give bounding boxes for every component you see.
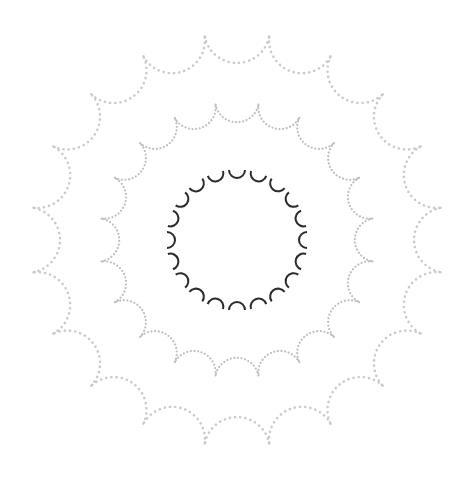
middle-ring <box>102 105 373 376</box>
inner-arc <box>251 299 267 309</box>
outer-ring <box>34 37 441 444</box>
scallop-rings-figure <box>0 0 474 479</box>
inner-arc <box>168 254 178 270</box>
inner-ring <box>167 170 307 310</box>
inner-arc <box>296 211 306 227</box>
outer-ring-scallops <box>34 37 441 444</box>
inner-arc <box>189 289 203 302</box>
inner-arc <box>286 192 299 206</box>
inner-arc <box>189 179 203 192</box>
inner-arc <box>208 299 224 309</box>
inner-arc <box>286 273 299 287</box>
inner-arc <box>270 289 284 302</box>
inner-arc <box>229 302 245 310</box>
inner-arc <box>299 232 307 248</box>
inner-arc <box>168 211 178 227</box>
middle-ring-scallops <box>102 105 373 376</box>
inner-arc <box>229 170 245 178</box>
inner-arc <box>167 232 175 248</box>
inner-arc <box>208 171 224 181</box>
inner-arc <box>176 273 189 287</box>
inner-arc <box>251 171 267 181</box>
inner-arc <box>270 179 284 192</box>
inner-arc <box>296 254 306 270</box>
inner-arc <box>176 192 189 206</box>
